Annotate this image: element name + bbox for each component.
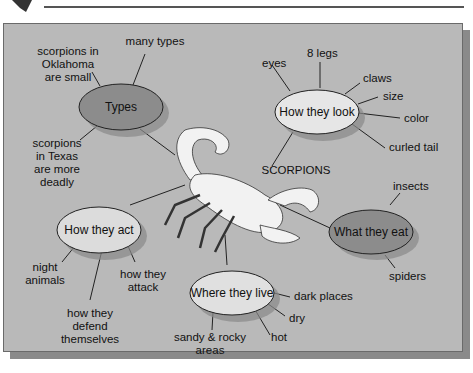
node-look-label: How they look — [275, 105, 359, 119]
scorpion-illustration — [165, 128, 319, 252]
detail-attack: how theyattack — [118, 268, 168, 294]
node-types-label: Types — [79, 100, 163, 114]
detail-dark-places: dark places — [294, 290, 353, 303]
detail-curled-tail: curled tail — [389, 141, 438, 154]
node-eat-label: What they eat — [329, 225, 413, 239]
detail-insects: insects — [393, 180, 429, 193]
detail-eyes: eyes — [262, 57, 286, 70]
detail-size: size — [383, 90, 403, 103]
detail-oklahoma: scorpions inOklahomaare small — [28, 45, 108, 84]
detail-dry: dry — [289, 312, 305, 325]
detail-color: color — [404, 112, 429, 125]
detail-many-types: many types — [120, 35, 190, 48]
detail-texas: scorpionsin Texasare moredeadly — [22, 137, 92, 189]
node-act-label: How they act — [57, 223, 141, 237]
detail-night-animals: nightanimals — [25, 261, 65, 287]
detail-hot: hot — [271, 331, 287, 344]
detail-8-legs: 8 legs — [307, 47, 338, 60]
node-live-label: Where they live — [190, 286, 274, 300]
detail-claws: claws — [363, 72, 392, 85]
center-label: SCORPIONS — [256, 164, 336, 176]
detail-defend: how theydefendthemselves — [60, 307, 120, 346]
detail-spiders: spiders — [389, 270, 426, 283]
detail-sandy-rocky: sandy & rockyareas — [170, 331, 250, 357]
